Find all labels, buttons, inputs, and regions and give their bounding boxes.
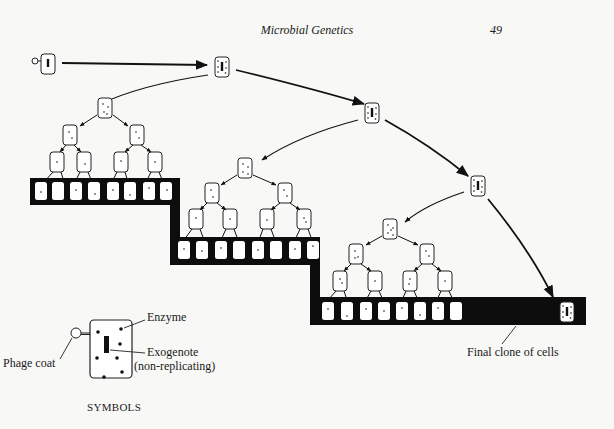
exogenote-cell-gen3 — [471, 176, 485, 196]
division-tree-2 — [184, 158, 312, 240]
legend-exogenote-label: Exogenote — [147, 345, 198, 359]
division-tree-1 — [44, 98, 163, 182]
arrow-lineage-3 — [488, 199, 553, 297]
final-clone-leader-line — [502, 326, 516, 344]
arrow-to-tree-1 — [98, 75, 208, 105]
arrow-lineage-2 — [385, 120, 468, 176]
symbols-legend: Enzyme Exogenote (non-replicating) Phage… — [3, 310, 215, 413]
initial-infected-cell — [32, 54, 55, 74]
phage-coat-icon — [71, 328, 81, 338]
arrow-to-tree-3 — [405, 192, 464, 222]
legend-enzyme-label: Enzyme — [147, 310, 186, 324]
exogenote-cell-gen2 — [365, 103, 379, 123]
legend-phage-coat-label: Phage coat — [3, 356, 56, 370]
legend-title: SYMBOLS — [87, 401, 141, 413]
abortive-transduction-diagram: Microbial Genetics 49 — [0, 0, 614, 429]
diagram-page: Microbial Genetics 49 — [0, 0, 614, 429]
running-header-title: Microbial Genetics — [260, 23, 354, 37]
legend-exogenote-note: (non-replicating) — [134, 359, 215, 373]
legend-cell — [90, 320, 132, 378]
final-exogenote-cell — [560, 302, 574, 322]
page-number: 49 — [490, 23, 502, 37]
final-clone-label: Final clone of cells — [467, 345, 559, 359]
division-tree-3 — [328, 219, 453, 300]
exogenote-icon — [104, 336, 109, 353]
arrow-infection — [62, 63, 207, 65]
exogenote-cell-gen1 — [215, 57, 229, 77]
arrow-to-tree-2 — [262, 120, 358, 160]
arrow-lineage-1 — [236, 70, 364, 104]
